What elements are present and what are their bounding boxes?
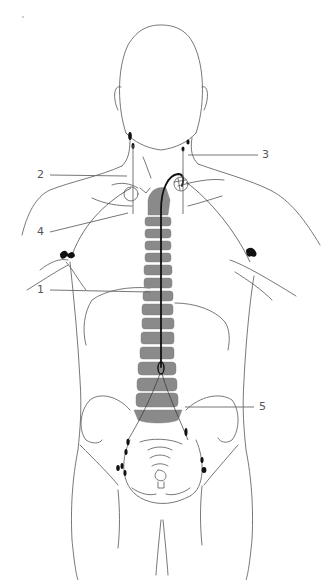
left-arm-line	[27, 265, 68, 290]
ribcage-left	[84, 288, 150, 346]
vertebra	[137, 378, 177, 391]
crotch-right	[163, 520, 168, 575]
vertebra	[144, 278, 172, 288]
right-venous-angle	[124, 187, 138, 201]
lymph-node	[185, 428, 188, 436]
inguinal-right	[204, 445, 238, 485]
axillary-node-left	[60, 251, 75, 259]
vertebra	[145, 217, 171, 226]
lymph-node	[128, 132, 132, 140]
lymph-node	[116, 465, 120, 471]
vessel-right-arm	[72, 188, 131, 255]
inguinal-left	[80, 445, 118, 485]
axillary-node-right	[246, 248, 257, 257]
vertebra	[142, 318, 174, 329]
ribcage-right	[175, 303, 229, 350]
pubic-right	[166, 488, 190, 495]
lymph-node	[124, 470, 127, 476]
callout-1: 1	[37, 284, 44, 295]
lymph-node	[124, 449, 127, 455]
left-armpit	[66, 262, 86, 290]
callout-3: 3	[262, 149, 269, 160]
lymph-node	[202, 467, 207, 473]
vertebra	[142, 304, 173, 315]
vessel-left-arm	[186, 182, 250, 262]
vertebra	[145, 229, 171, 238]
speck	[22, 16, 23, 17]
inguinal-nodes	[116, 428, 206, 476]
pelvis-inner	[140, 439, 182, 444]
vertebra	[141, 332, 174, 344]
vertebra	[136, 393, 178, 407]
upper-thoracic	[148, 188, 170, 216]
spine	[134, 188, 182, 424]
coccyx	[155, 470, 166, 488]
right-arm-line	[230, 260, 296, 296]
lymph-node	[121, 463, 124, 469]
vertebra	[145, 253, 171, 262]
left-leg-inner	[118, 490, 120, 548]
vertebra	[143, 291, 173, 301]
neck-left	[122, 140, 130, 166]
right-arm-inner	[235, 272, 272, 300]
crotch-left	[156, 520, 161, 575]
vertebra	[144, 265, 172, 275]
callout-5: 5	[259, 401, 266, 412]
neck-right	[191, 138, 198, 164]
right-leg-inner	[201, 486, 203, 545]
vertebra	[145, 241, 171, 250]
pelvis-right-iliac	[186, 396, 238, 442]
lymphatic-diagram	[0, 0, 324, 580]
leader-2	[50, 175, 127, 176]
left-arm-inner	[40, 259, 68, 270]
pelvic-bowl	[124, 440, 202, 503]
callout-2: 2	[37, 169, 44, 180]
head-outline	[120, 25, 203, 133]
lymph-node	[200, 457, 203, 463]
left-torso-side	[70, 262, 81, 580]
pelvis-left-iliac	[81, 396, 130, 443]
lymph-node	[186, 140, 189, 145]
callout-4: 4	[37, 226, 44, 237]
jaw	[126, 133, 196, 150]
sacrum-lines	[148, 447, 172, 466]
cervical-nodes	[128, 132, 189, 152]
right-shoulder	[198, 164, 320, 245]
vertebra	[140, 347, 174, 359]
leader-4	[50, 213, 128, 232]
right-clavicle-lower	[188, 196, 222, 206]
trachea-line	[143, 157, 151, 178]
lymph-node	[126, 439, 129, 445]
sternum-notch	[140, 188, 150, 193]
right-torso-side	[243, 276, 254, 580]
leader-1	[50, 290, 150, 292]
vertebra	[138, 362, 176, 375]
pubic-left	[132, 488, 156, 495]
